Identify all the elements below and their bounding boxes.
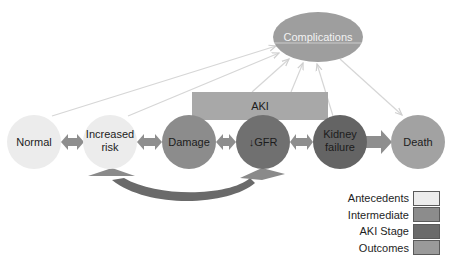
node-normal: Normal [7,115,61,169]
gfr-label: ↓GFR [249,136,278,148]
legend-label: Antecedents [348,192,409,204]
death-label: Death [403,136,432,148]
legend-item-intermediate: Intermediate [300,207,440,224]
legend-label: Intermediate [348,209,409,221]
legend-swatch [413,224,440,239]
kidney-failure-label-line2: failure [325,141,355,153]
node-death: Death [391,115,445,169]
legend-item-aki-stage: AKI Stage [300,223,440,240]
arrow-damage-to-complications [252,59,289,92]
damage-label: Damage [168,136,210,148]
kidney-failure-label-line1: Kidney [323,128,357,140]
legend-item-outcomes: Outcomes [300,240,440,257]
arrow-risk-damage [137,134,162,150]
legend-label: Outcomes [359,242,409,254]
node-increased-risk: Increased risk [83,115,137,169]
node-kidney-failure: Kidney failure [313,115,367,169]
arrow-gfr-to-complications [291,63,303,92]
legend-label: AKI Stage [359,225,409,237]
node-gfr: ↓GFR [236,115,290,169]
arrow-normal-risk [61,134,84,150]
legend-swatch [413,207,440,222]
aki-label: AKI [251,100,269,112]
arrow-failure-death [366,130,392,154]
legend-swatch [413,240,440,255]
complications-node: Complications [273,12,363,62]
complications-label: Complications [283,31,353,43]
increased-risk-label-line1: Increased [86,128,134,140]
legend: Antecedents Intermediate AKI Stage Outco… [300,190,440,256]
legend-swatch [413,191,440,206]
curved-arrow-risk-gfr [88,168,285,201]
increased-risk-label-line2: risk [101,141,119,153]
normal-label: Normal [16,136,51,148]
legend-item-antecedents: Antecedents [300,190,440,207]
node-damage: Damage [162,115,216,169]
arrow-damage-gfr [216,134,236,150]
arrow-gfr-failure [290,134,313,150]
arrow-complications-to-death [340,59,402,115]
